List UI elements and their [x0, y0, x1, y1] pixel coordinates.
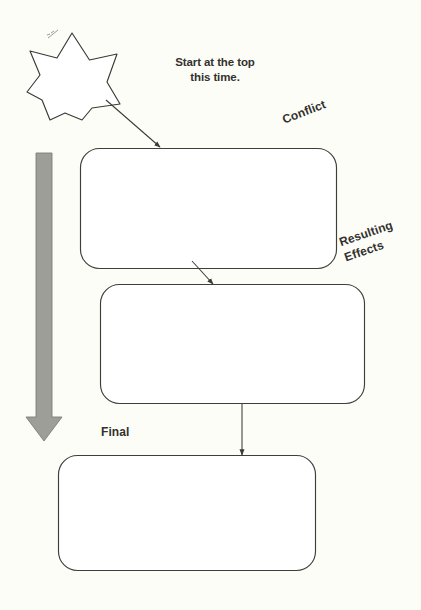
- resulting-effects-box[interactable]: [101, 285, 365, 404]
- final-label: Final: [101, 425, 130, 440]
- instruction-text: Start at the top this time.: [150, 55, 280, 84]
- diagram-canvas: [0, 0, 421, 610]
- final-box[interactable]: [59, 456, 316, 571]
- conflict-box[interactable]: [81, 149, 337, 269]
